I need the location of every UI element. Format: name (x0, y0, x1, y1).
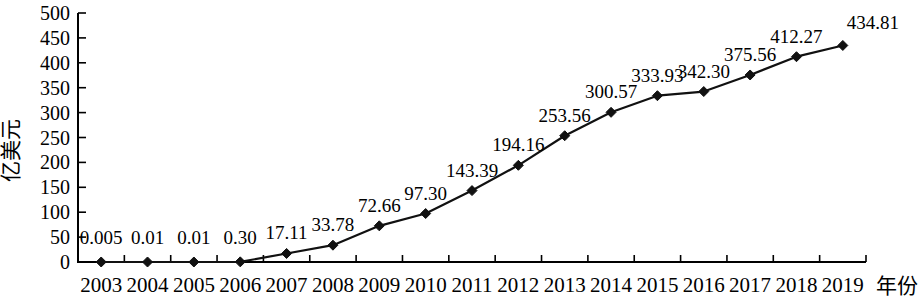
data-value-label: 412.27 (770, 26, 822, 47)
data-value-labels: 0.0050.010.010.3017.1133.7872.6697.30143… (80, 12, 899, 248)
y-axis-tick-label: 0 (60, 251, 70, 273)
data-point-marker (235, 257, 245, 267)
data-point-marker (699, 87, 709, 97)
data-point-marker (606, 107, 616, 117)
x-axis-title: 年份 (876, 274, 918, 298)
data-point-marker (791, 52, 801, 62)
y-axis-tick-label: 450 (40, 27, 70, 49)
x-axis-tick-label: 2003 (80, 273, 122, 297)
data-value-label: 33.78 (312, 214, 355, 235)
data-value-label: 0.30 (224, 227, 257, 248)
y-axis-tick-label: 500 (40, 2, 70, 24)
x-axis-tick-label: 2011 (451, 273, 492, 297)
data-value-label: 143.39 (446, 160, 498, 181)
data-value-label: 194.16 (492, 134, 544, 155)
line-chart-figure: 050100150200250300350400450500 200320042… (0, 0, 921, 300)
x-axis-tick-label: 2014 (590, 273, 633, 297)
data-point-marker (282, 248, 292, 258)
data-value-label: 0.01 (131, 227, 164, 248)
data-point-marker (374, 221, 384, 231)
x-axis-tick-label: 2009 (358, 273, 400, 297)
data-series-line (101, 45, 843, 262)
data-point-marker (652, 91, 662, 101)
data-value-label: 342.30 (678, 61, 730, 82)
y-axis-tick-label: 350 (40, 77, 70, 99)
data-point-marker (467, 186, 477, 196)
chart-canvas: 050100150200250300350400450500 200320042… (0, 0, 921, 300)
data-value-label: 300.57 (585, 81, 637, 102)
data-point-marker (189, 257, 199, 267)
data-point-marker (838, 40, 848, 50)
y-axis-tick-marks (78, 13, 86, 262)
data-value-label: 0.01 (177, 227, 210, 248)
data-value-label: 72.66 (358, 195, 401, 216)
x-axis-tick-label: 2004 (127, 273, 170, 297)
data-value-label: 375.56 (724, 44, 776, 65)
x-axis-tick-label: 2007 (266, 273, 308, 297)
y-axis-tick-label: 400 (40, 52, 70, 74)
x-axis-tick-labels: 2003200420052006200720082009201020112012… (80, 273, 864, 297)
x-axis-tick-label: 2017 (729, 273, 771, 297)
x-axis-tick-label: 2006 (219, 273, 261, 297)
y-axis-tick-labels: 050100150200250300350400450500 (40, 2, 70, 273)
data-value-label: 333.93 (631, 65, 683, 86)
y-axis-tick-label: 300 (40, 102, 70, 124)
x-axis-tick-label: 2015 (636, 273, 678, 297)
data-value-label: 17.11 (266, 222, 308, 243)
y-axis-tick-label: 100 (40, 201, 70, 223)
data-value-label: 434.81 (847, 12, 899, 33)
data-value-label: 0.005 (80, 227, 123, 248)
y-axis-tick-label: 150 (40, 176, 70, 198)
y-axis-tick-label: 200 (40, 151, 70, 173)
x-axis-tick-label: 2005 (173, 273, 215, 297)
y-axis-tick-label: 250 (40, 127, 70, 149)
x-axis-tick-label: 2010 (405, 273, 447, 297)
data-value-label: 97.30 (404, 183, 447, 204)
data-value-label: 253.56 (539, 105, 591, 126)
y-axis-tick-label: 50 (50, 226, 70, 248)
data-point-marker (421, 209, 431, 219)
x-axis-tick-label: 2018 (775, 273, 817, 297)
data-point-marker (745, 70, 755, 80)
data-point-marker (96, 257, 106, 267)
x-axis-tick-label: 2016 (683, 273, 725, 297)
x-axis-tick-label: 2012 (497, 273, 539, 297)
x-axis-tick-label: 2013 (544, 273, 586, 297)
x-axis-tick-label: 2008 (312, 273, 354, 297)
data-point-marker (328, 240, 338, 250)
y-axis-title: 亿美元 (0, 119, 23, 182)
x-axis-tick-label: 2019 (822, 273, 864, 297)
data-point-marker (143, 257, 153, 267)
